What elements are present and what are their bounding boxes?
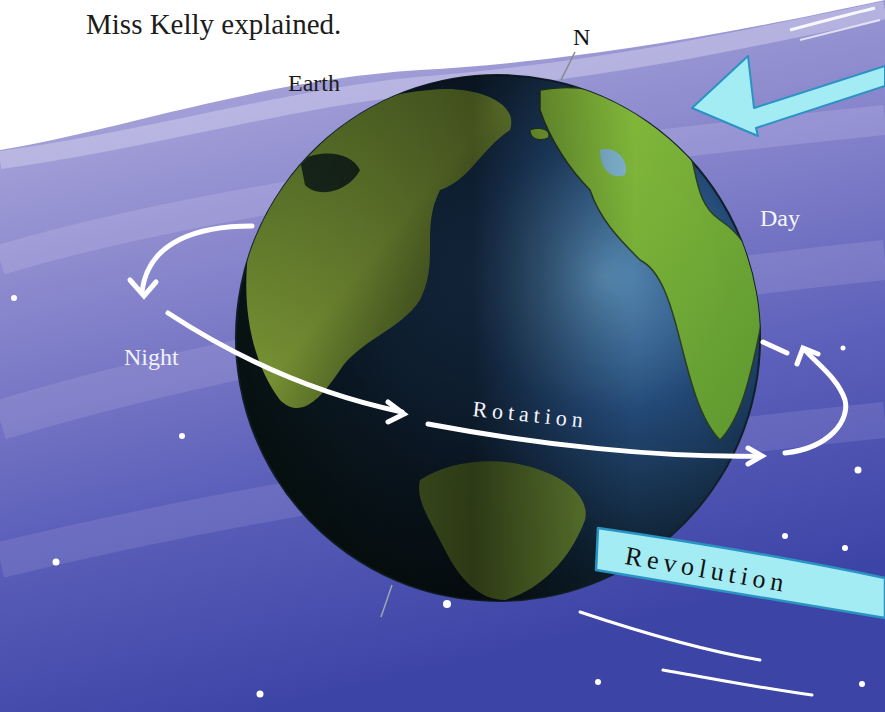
- label-north: N: [573, 24, 590, 51]
- illustration: Miss Kelly explained. Earth N Day Night …: [0, 0, 885, 712]
- page-caption: Miss Kelly explained.: [86, 8, 341, 41]
- label-day: Day: [760, 205, 800, 232]
- label-earth: Earth: [288, 70, 340, 97]
- label-night: Night: [124, 344, 179, 371]
